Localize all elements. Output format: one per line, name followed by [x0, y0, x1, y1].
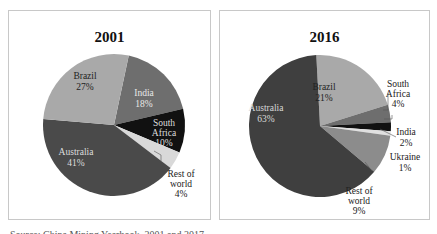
pie-chart-2001: Brazil27% India18% SouthAfrica10% Austra… [9, 11, 212, 221]
label-brazil-2001: Brazil27% [73, 71, 97, 92]
label-south-africa-2016: SouthAfrica4% [386, 79, 411, 109]
source-caption: Source: China Mining Yearbook, 2001 and … [10, 229, 206, 234]
chart-panel-2001: 2001 Brazil27% India18% SouthAfrica10% A… [8, 10, 211, 220]
pie-chart-2016: Brazil21% SouthAfrica4% India2% Ukraine1… [220, 11, 431, 221]
label-india-2001: India18% [134, 88, 154, 109]
chart-panel-2016: 2016 Brazil21% SouthAfrica4% India2% Ukr… [219, 10, 430, 220]
label-india-2016: India2% [396, 127, 416, 148]
label-rest-of-world-2001: Rest ofworld4% [167, 169, 195, 199]
label-ukraine-2016: Ukraine1% [390, 152, 421, 173]
label-brazil-2016: Brazil21% [312, 82, 336, 103]
label-rest-of-world-2016: Rest ofworld9% [345, 186, 373, 216]
